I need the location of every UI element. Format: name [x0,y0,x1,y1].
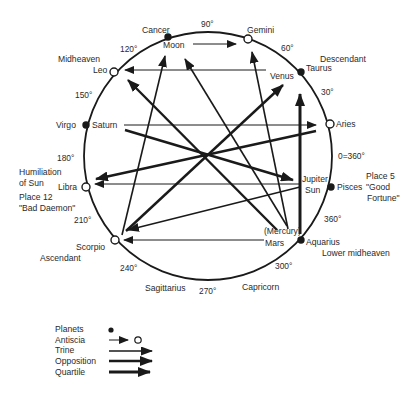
degree-60: 60° [281,43,294,53]
degree-150: 150° [75,90,92,100]
legend-label-quartile: Quartile [55,367,85,378]
marker-pisces [328,184,334,190]
degree-300: 300° [275,261,292,271]
planet-mercury: (Mercury) [264,226,301,236]
legend-planet-dot [108,327,113,332]
annotation-place5-3: Fortune" [367,193,400,203]
sign-virgo: Virgo [56,120,76,130]
annotation-place12-2: "Bad Daemon" [19,203,75,213]
legend-label-trine: Trine [55,345,74,356]
degree-270: 270° [199,286,216,296]
marker-leo [110,68,118,76]
sign-markers [82,34,334,244]
degree-120: 120° [120,44,137,54]
annotation-ascendant: Ascendant [40,253,81,263]
sign-pisces: Pisces [337,182,362,192]
degree-30: 30° [321,87,334,97]
planet-moon: Moon [163,40,185,50]
marker-aries [326,120,334,128]
marker-taurus [298,69,304,75]
sign-taurus: Taurus [306,63,332,73]
legend-label-planets: Planets [55,324,84,335]
legend-antiscia-circle [135,337,141,343]
sign-cancer: Cancer [142,25,170,35]
planet-mars: Mars [265,238,284,248]
sign-aries: Aries [336,119,356,129]
annotation-place5-1: Place 5 [366,171,395,181]
sign-sagittarius: Sagittarius [145,283,186,293]
planet-saturn: Saturn [92,120,117,130]
legend-symbols [108,327,152,372]
annotation-midheaven: Midheaven [58,54,100,64]
degree-240: 240° [120,263,137,273]
marker-libra [82,183,90,191]
sign-scorpio: Scorpio [76,242,105,252]
degree-90: 90° [201,19,214,29]
degree-360: 360° [324,214,341,224]
sign-libra: Libra [58,182,77,192]
planet-venus: Venus [270,71,294,81]
planet-sun: Sun [305,185,320,195]
marker-virgo [83,122,89,128]
degree-180: 180° [57,153,74,163]
legend-label-antiscia: Antiscia [55,335,85,346]
degree-210: 210° [74,215,91,225]
marker-aquarius [298,237,304,243]
sign-aquarius: Aquarius [306,237,340,247]
sign-leo: Leo [93,65,107,75]
marker-gemini [244,35,252,43]
annotation-place12-1: Place 12 [19,192,52,202]
annotation-place5-2: "Good [366,182,390,192]
legend-label-opposition: Opposition [55,356,96,367]
annotation-lower-midheaven: Lower midheaven [322,248,390,258]
annotation-humiliation-2: of Sun [19,178,44,188]
sign-gemini: Gemini [247,25,274,35]
annotation-descendant: Descendant [320,54,366,64]
planet-jupiter: Jupiter [302,174,328,184]
annotation-humiliation-1: Humiliation [19,167,62,177]
marker-scorpio [111,236,119,244]
degree-0-360: 0=360° [338,151,365,161]
sign-capricorn: Capricorn [242,282,279,292]
